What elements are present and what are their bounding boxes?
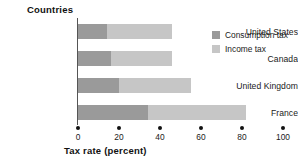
bar-row: [78, 78, 191, 93]
x-axis-tick-dot: [281, 126, 285, 130]
bar-segment-income-tax: [111, 51, 173, 66]
legend-swatch-icon: [212, 45, 220, 53]
bar-segment-income-tax: [119, 78, 191, 93]
bar-segment-consumption-tax: [78, 24, 107, 39]
x-axis-tick-dot: [117, 126, 121, 130]
bar-row: [78, 24, 172, 39]
bar-segment-income-tax: [148, 105, 246, 120]
x-axis-tick-dot: [199, 126, 203, 130]
bar-segment-consumption-tax: [78, 78, 119, 93]
x-axis-tick-dot: [76, 126, 80, 130]
x-axis-tick-label: 20: [107, 132, 131, 142]
x-axis-tick-label: 0: [66, 132, 90, 142]
bar-segment-consumption-tax: [78, 51, 111, 66]
x-axis-title: Tax rate (percent): [64, 145, 147, 156]
legend-label: Consumption tax: [225, 30, 288, 40]
x-axis-tick-dot: [158, 126, 162, 130]
tax-rate-bar-chart: Countries United StatesCanadaUnited King…: [0, 0, 298, 163]
bar-row: [78, 105, 246, 120]
x-axis-tick-label: 40: [148, 132, 172, 142]
x-axis-tick-label: 60: [189, 132, 213, 142]
bar-segment-consumption-tax: [78, 105, 148, 120]
bar-row: [78, 51, 172, 66]
x-axis-tick-label: 100: [271, 132, 295, 142]
bar-segment-income-tax: [107, 24, 173, 39]
legend-item: Income tax: [212, 43, 288, 54]
legend-label: Income tax: [225, 44, 266, 54]
x-axis-tick-dot: [240, 126, 244, 130]
legend-item: Consumption tax: [212, 29, 288, 40]
legend-swatch-icon: [212, 31, 220, 39]
legend: Consumption taxIncome tax: [212, 29, 288, 57]
y-axis-title: Countries: [27, 4, 73, 15]
x-axis-tick-label: 80: [230, 132, 254, 142]
